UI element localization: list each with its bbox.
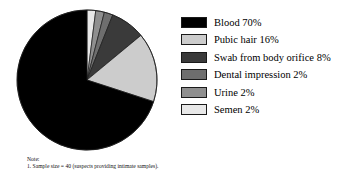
- note-line-1: 1. Sample size = 40 (suspects providing …: [27, 163, 158, 170]
- chart-legend: Blood 70%Pubic hair 16%Swab from body or…: [181, 16, 337, 122]
- legend-item-urine: Urine 2%: [181, 86, 337, 98]
- legend-swatch-urine: [181, 87, 207, 98]
- legend-item-swab-from-body-orifice: Swab from body orifice 8%: [181, 51, 337, 63]
- legend-label-semen: Semen 2%: [214, 104, 259, 115]
- legend-swatch-swab-from-body-orifice: [181, 52, 207, 63]
- legend-item-dental-impression: Dental impression 2%: [181, 69, 337, 81]
- legend-item-blood: Blood 70%: [181, 16, 337, 28]
- legend-item-semen: Semen 2%: [181, 104, 337, 116]
- legend-label-urine: Urine 2%: [214, 87, 255, 98]
- legend-swatch-dental-impression: [181, 69, 207, 80]
- legend-item-pubic-hair: Pubic hair 16%: [181, 34, 337, 46]
- legend-label-pubic-hair: Pubic hair 16%: [214, 34, 279, 45]
- pie-slice-group: [17, 10, 157, 150]
- legend-label-blood: Blood 70%: [214, 17, 262, 28]
- pie-svg: [16, 9, 158, 151]
- pie-chart-figure: Blood 70%Pubic hair 16%Swab from body or…: [0, 0, 339, 179]
- legend-swatch-pubic-hair: [181, 34, 207, 45]
- legend-swatch-semen: [181, 104, 207, 115]
- pie-chart-plot: [16, 9, 158, 151]
- note-heading: Note:: [27, 156, 158, 163]
- legend-label-swab-from-body-orifice: Swab from body orifice 8%: [214, 52, 331, 63]
- chart-note: Note: 1. Sample size = 40 (suspects prov…: [27, 156, 158, 170]
- legend-label-dental-impression: Dental impression 2%: [214, 69, 307, 80]
- legend-swatch-blood: [181, 17, 207, 28]
